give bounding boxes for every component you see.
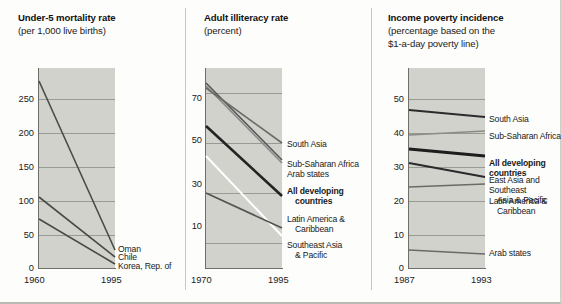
series-line-sub-saharan-africa — [206, 83, 282, 160]
series-lines-1 — [39, 68, 119, 269]
series-lines-2 — [206, 68, 286, 269]
series-line-latin-america-caribbean — [409, 184, 485, 187]
series-line-all-developing-countries — [409, 149, 485, 156]
x-tick-label: 1987 — [394, 275, 415, 285]
y-tick-label: 10 — [374, 230, 404, 240]
y-tick-label: 200 — [4, 128, 34, 138]
y-tick-label: 0 — [4, 263, 34, 273]
y-tick-label: 20 — [374, 196, 404, 206]
x-tick-label: 1993 — [471, 275, 492, 285]
y-tick-label: 10 — [174, 221, 202, 231]
panel-3-title-block: Income poverty incidence (percentage bas… — [388, 11, 556, 50]
y-tick-label: 70 — [174, 93, 202, 103]
series-label-latin-america-caribbean: Latin America & Caribbean — [287, 214, 345, 234]
series-label-south-asia: South Asia — [489, 114, 529, 124]
series-label-line-1: All developing — [287, 186, 344, 196]
y-tick-label: 50 — [174, 135, 202, 145]
y-tick-label: 50 — [374, 94, 404, 104]
y-tick-label: 150 — [4, 162, 34, 172]
y-tick-label: 100 — [4, 196, 34, 206]
panel-adult-illiteracy: Adult illiteracy rate (percent) 70 50 30… — [186, 0, 372, 304]
x-tick-label: 1970 — [191, 275, 212, 285]
series-line-arab-states — [206, 86, 282, 163]
y-tick-label: 50 — [4, 230, 34, 240]
y-tick-label: 0 — [374, 263, 404, 273]
panel-3-title: Income poverty incidence — [388, 11, 556, 24]
series-line-east-asia-southeast-asia-pacific — [409, 163, 485, 177]
panel-3-subtitle-line-1: (percentage based on the — [388, 24, 556, 37]
y-tick-label: 30 — [374, 162, 404, 172]
series-line-southeast-asia-pacific — [206, 193, 282, 228]
series-label-line-1: East Asia and Southeast — [489, 175, 540, 195]
series-line-south-asia — [409, 110, 485, 117]
x-tick-label: 1995 — [101, 275, 122, 285]
series-label-south-asia: South Asia — [287, 139, 327, 149]
series-line-all-developing-countries — [206, 126, 282, 196]
series-label-line-2: Caribbean — [287, 224, 345, 234]
series-line-latin-america-caribbean — [206, 156, 282, 236]
panel-3-subtitle-line-2: $1-a-day poverty line) — [388, 37, 556, 50]
panel-2-subtitle: (percent) — [204, 24, 372, 37]
series-line-arab-states — [409, 250, 485, 254]
series-label-line-2: Caribbean — [489, 206, 547, 216]
series-label-southeast-asia-pacific: Southeast Asia & Pacific — [287, 240, 342, 260]
page-title: Under-5 mortality rate — [18, 11, 186, 24]
series-label-line-1: Latin America & — [489, 196, 547, 206]
series-line-sub-saharan-africa — [409, 131, 485, 135]
series-label-sub-saharan-africa: Sub-Saharan Africa — [287, 159, 359, 169]
series-label-latin-america-caribbean: Latin America & Caribbean — [489, 196, 547, 216]
series-label-all-developing-countries: All developing countries — [287, 186, 344, 206]
panel-1-subtitle: (per 1,000 live births) — [18, 24, 186, 37]
panel-income-poverty: Income poverty incidence (percentage bas… — [372, 0, 561, 304]
x-tick-label: 1960 — [24, 275, 45, 285]
series-label-line-1: Latin America & — [287, 214, 345, 224]
y-tick-label: 30 — [174, 179, 202, 189]
series-label-korea: Korea, Rep. of — [118, 261, 171, 271]
series-label-line-1: Southeast Asia — [287, 240, 342, 250]
panel-2-title-block: Adult illiteracy rate (percent) — [204, 11, 372, 37]
series-line-oman — [39, 81, 115, 250]
y-tick-label: 250 — [4, 94, 34, 104]
panel-under-5-mortality: Under-5 mortality rate (per 1,000 live b… — [0, 0, 186, 304]
series-label-sub-saharan-africa: Sub-Saharan Africa — [489, 131, 561, 141]
y-tick-label: 40 — [374, 128, 404, 138]
series-label-arab-states: Arab states — [287, 169, 329, 179]
series-label-arab-states: Arab states — [489, 248, 531, 258]
series-label-line-2: & Pacific — [287, 250, 342, 260]
panel-1-title-block: Under-5 mortality rate (per 1,000 live b… — [18, 11, 186, 37]
figure-root: Under-5 mortality rate (per 1,000 live b… — [0, 0, 561, 304]
series-lines-3 — [409, 68, 489, 269]
series-line-chile — [39, 197, 115, 257]
x-tick-label: 1995 — [268, 275, 289, 285]
panel-2-title: Adult illiteracy rate — [204, 11, 372, 24]
series-label-line-2: countries — [287, 196, 344, 206]
